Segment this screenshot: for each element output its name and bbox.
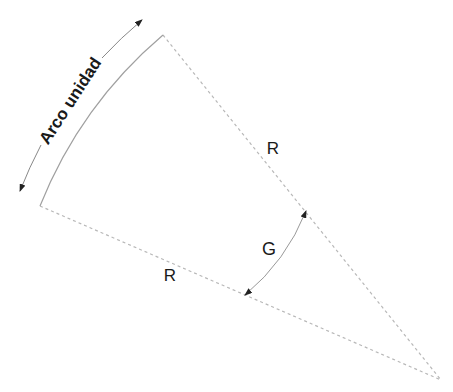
angle-label: G	[262, 239, 276, 259]
arc-dimension-line-upper	[102, 20, 142, 58]
radius-upper-label: R	[267, 139, 279, 158]
radius-upper-line	[163, 35, 441, 380]
arc-dimension-line-lower	[20, 145, 41, 191]
arc-label: Arco unidad	[35, 54, 105, 148]
radius-lower-line	[40, 206, 441, 380]
sector-diagram: Arco unidad R R G	[0, 0, 453, 392]
radius-lower-label: R	[164, 266, 176, 285]
